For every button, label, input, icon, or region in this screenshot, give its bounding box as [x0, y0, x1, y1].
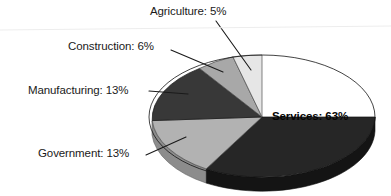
slice-label-government: Government: 13% [38, 147, 129, 159]
pie-chart-figure: Agriculture: 5% Construction: 6% Manufac… [0, 0, 391, 196]
slice-label-construction: Construction: 6% [68, 40, 154, 52]
leader-line-construction [171, 50, 223, 72]
top-hairline [0, 26, 391, 30]
pie-chart-graphic [0, 0, 391, 196]
slice-label-services: Services: 63% [272, 110, 348, 122]
slice-label-agriculture: Agriculture: 5% [150, 5, 226, 17]
slice-label-manufacturing: Manufacturing: 13% [28, 84, 128, 96]
